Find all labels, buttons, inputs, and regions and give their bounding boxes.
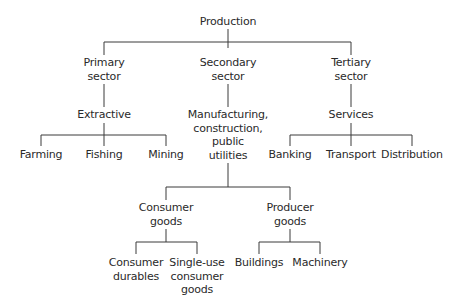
node-producer-goods: Producer goods [266,201,313,228]
node-services: Services [329,108,374,122]
node-label: Extractive [77,108,131,122]
node-production: Production [200,15,257,29]
node-label: sector [200,70,256,84]
node-mining: Mining [148,148,183,162]
node-tertiary-sector: Tertiary sector [331,56,371,83]
node-label: Mining [148,148,183,162]
node-label: utilities [188,149,268,163]
node-label: Secondary [200,56,256,70]
node-primary-sector: Primary sector [83,56,124,83]
node-machinery: Machinery [292,256,347,270]
node-label: Consumer [109,256,164,270]
node-transport: Transport [326,148,376,162]
node-label: Buildings [235,256,284,270]
node-label: Primary [83,56,124,70]
node-buildings: Buildings [235,256,284,270]
node-label: Fishing [86,148,123,162]
node-secondary-sector: Secondary sector [200,56,256,83]
node-label: Distribution [381,148,443,162]
node-distribution: Distribution [381,148,443,162]
node-extractive: Extractive [77,108,131,122]
node-fishing: Fishing [86,148,123,162]
node-label: Single-use [169,256,224,270]
node-label: Services [329,108,374,122]
node-label: Consumer [139,201,194,215]
node-farming: Farming [20,148,63,162]
node-label: Producer [266,201,313,215]
node-label: construction, [188,122,268,136]
node-manufacturing: Manufacturing, construction, public util… [188,108,268,162]
node-banking: Banking [268,148,311,162]
node-label: sector [83,70,124,84]
node-consumer-durables: Consumer durables [109,256,164,283]
node-label: goods [266,215,313,229]
node-label: Tertiary [331,56,371,70]
node-label: goods [169,283,224,297]
node-label: Transport [326,148,376,162]
node-label: Machinery [292,256,347,270]
node-single-use-consumer-goods: Single-use consumer goods [169,256,224,297]
node-label: Banking [268,148,311,162]
node-label: durables [109,270,164,284]
node-label: consumer [169,270,224,284]
node-label: Manufacturing, [188,108,268,122]
node-label: public [188,135,268,149]
node-label: goods [139,215,194,229]
node-label: sector [331,70,371,84]
node-consumer-goods: Consumer goods [139,201,194,228]
node-label: Farming [20,148,63,162]
node-label: Production [200,15,257,29]
